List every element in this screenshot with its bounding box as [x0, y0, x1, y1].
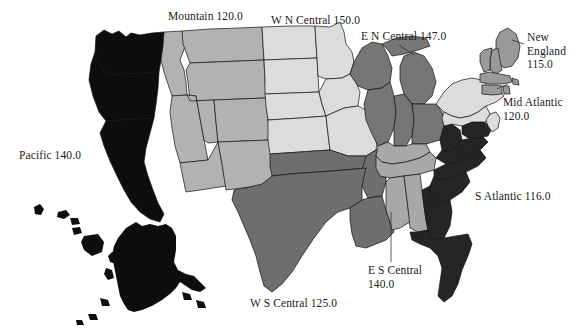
region-label-w-s-central: W S Central 125.0	[250, 297, 337, 311]
us-map-svg: .st{stroke:#111;stroke-width:.7;stroke-l…	[0, 0, 577, 335]
region-label-pacific: Pacific 140.0	[19, 149, 81, 163]
region-pacific	[89, 30, 164, 222]
inset-hawaii	[34, 204, 104, 256]
region-label-w-n-central: W N Central 150.0	[271, 14, 360, 28]
region-mountain	[161, 27, 274, 192]
region-label-mid-atlantic: Mid Atlantic 120.0	[503, 96, 563, 123]
region-label-new-england: New England 115.0	[527, 31, 566, 72]
choropleth-map-figure: .st{stroke:#111;stroke-width:.7;stroke-l…	[0, 0, 577, 335]
region-label-e-s-central: E S Central 140.0	[368, 264, 422, 291]
region-label-s-atlantic: S Atlantic 116.0	[475, 190, 551, 204]
region-label-mountain: Mountain 120.0	[168, 10, 243, 24]
region-label-e-n-central: E N Central 147.0	[361, 30, 446, 44]
region-new-england	[480, 28, 520, 95]
